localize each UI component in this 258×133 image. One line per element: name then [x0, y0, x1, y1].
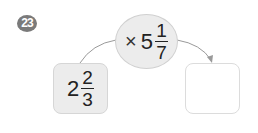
operation-expression: × 5 1 7 [125, 21, 168, 63]
input-mixed-number: 2 2 3 [67, 68, 94, 110]
multiply-sign: × [125, 30, 137, 53]
arc-right [177, 40, 211, 60]
operation-whole: 5 [141, 29, 153, 55]
input-fraction: 2 3 [81, 68, 94, 110]
answer-box[interactable] [185, 63, 240, 114]
operation-fraction: 1 7 [155, 21, 168, 63]
arc-left [80, 40, 116, 63]
operation-denominator: 7 [156, 43, 167, 62]
input-numerator: 2 [82, 68, 93, 87]
operation-numerator: 1 [156, 21, 167, 40]
input-box: 2 2 3 [53, 63, 108, 114]
operation-ellipse: × 5 1 7 [115, 14, 178, 69]
input-whole: 2 [67, 76, 79, 102]
input-denominator: 3 [82, 90, 93, 109]
